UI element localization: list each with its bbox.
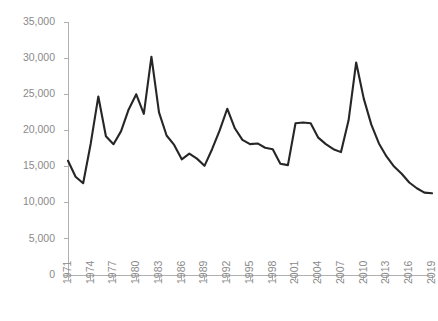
- data-line-series: [68, 57, 432, 194]
- y-tick-label: 5,000: [29, 232, 55, 244]
- x-tick-label: 1995: [243, 260, 255, 284]
- line-chart-figure: 05,00010,00015,00020,00025,00030,00035,0…: [0, 0, 438, 321]
- y-tick-label: 30,000: [23, 51, 55, 63]
- x-tick-label: 1986: [175, 260, 187, 284]
- x-axis-tick-labels: 1971197419771980198319861989199219951998…: [61, 260, 437, 284]
- y-axis-tick-labels: 05,00010,00015,00020,00025,00030,00035,0…: [23, 15, 55, 280]
- y-tick-label: 35,000: [23, 15, 55, 27]
- x-tick-label: 2007: [334, 260, 346, 284]
- x-tick-label: 1974: [84, 260, 96, 284]
- y-tick-label: 0: [49, 268, 55, 280]
- y-tick-label: 10,000: [23, 195, 55, 207]
- data-series-group: [68, 57, 432, 194]
- x-tick-label: 2004: [311, 260, 323, 284]
- y-tick-label: 15,000: [23, 159, 55, 171]
- x-tick-label: 2001: [288, 260, 300, 284]
- x-tick-label: 1980: [129, 260, 141, 284]
- x-tick-label: 2010: [357, 260, 369, 284]
- x-tick-label: 2013: [379, 260, 391, 284]
- x-tick-label: 1992: [220, 260, 232, 284]
- x-tick-label: 1983: [152, 260, 164, 284]
- x-tick-label: 1977: [106, 260, 118, 284]
- y-axis-tick-marks: [64, 22, 68, 275]
- y-tick-label: 25,000: [23, 87, 55, 99]
- x-tick-label: 1998: [266, 260, 278, 284]
- y-tick-label: 20,000: [23, 123, 55, 135]
- chart-canvas: 05,00010,00015,00020,00025,00030,00035,0…: [0, 0, 438, 321]
- x-tick-label: 2016: [402, 260, 414, 284]
- x-tick-label: 2019: [425, 260, 437, 284]
- x-tick-label: 1989: [197, 260, 209, 284]
- x-tick-label: 1971: [61, 260, 73, 284]
